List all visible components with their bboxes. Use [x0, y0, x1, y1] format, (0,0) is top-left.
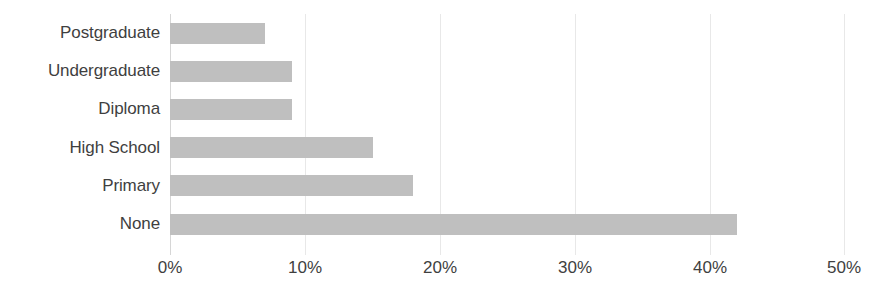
x-tick-label-0: 0%: [158, 258, 183, 278]
bar-row-diploma: [170, 90, 845, 128]
bar-postgraduate: [170, 23, 265, 44]
y-axis-label-postgraduate: Postgraduate: [0, 14, 160, 52]
y-axis-label-none: None: [0, 205, 160, 243]
x-tick-label-10: 10%: [288, 258, 322, 278]
y-axis-label-high-school: High School: [0, 129, 160, 167]
y-axis-category-labels: Postgraduate Undergraduate Diploma High …: [0, 14, 160, 255]
bar-row-none: [170, 205, 845, 243]
y-axis-label-undergraduate: Undergraduate: [0, 52, 160, 90]
bar-row-high-school: [170, 129, 845, 167]
bar-undergraduate: [170, 61, 292, 82]
x-tick-label-30: 30%: [558, 258, 592, 278]
plot-area: [170, 14, 845, 255]
y-axis-label-diploma: Diploma: [0, 90, 160, 128]
bar-row-primary: [170, 167, 845, 205]
bar-none: [170, 214, 737, 235]
bar-high-school: [170, 137, 373, 158]
bar-diploma: [170, 99, 292, 120]
bar-row-postgraduate: [170, 14, 845, 52]
x-tick-label-40: 40%: [693, 258, 727, 278]
x-tick-label-50: 50%: [827, 258, 861, 278]
bar-row-undergraduate: [170, 52, 845, 90]
y-axis-label-primary: Primary: [0, 167, 160, 205]
x-tick-label-20: 20%: [423, 258, 457, 278]
bar-primary: [170, 175, 413, 196]
x-axis-tick-labels: 0% 10% 20% 30% 40% 50%: [170, 258, 845, 288]
bars-layer: [170, 14, 845, 255]
bar-chart: Postgraduate Undergraduate Diploma High …: [0, 0, 894, 307]
